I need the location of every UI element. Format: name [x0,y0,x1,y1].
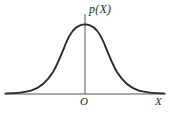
normal-distribution-figure: p(X) O X [0,0,170,114]
origin-label: O [80,96,88,107]
x-axis-label: X [155,96,162,107]
y-axis-label: p(X) [89,3,111,15]
